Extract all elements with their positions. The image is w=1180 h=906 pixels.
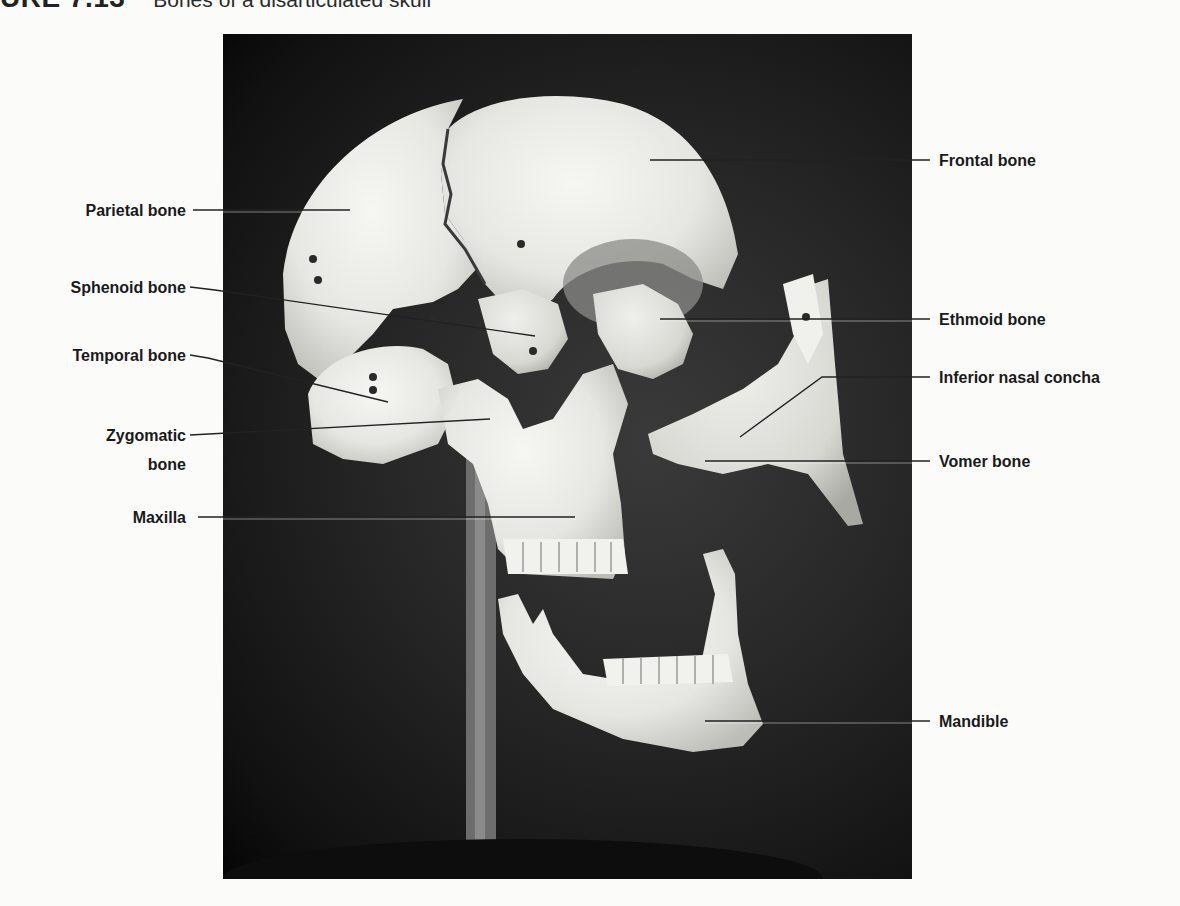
label-maxilla: Maxilla — [133, 508, 186, 527]
label-parietal-bone: Parietal bone — [86, 201, 186, 220]
label-temporal-bone: Temporal bone — [73, 346, 187, 365]
disarticulated-skull-illustration — [223, 34, 912, 879]
label-inferior-nasal-concha: Inferior nasal concha — [939, 368, 1100, 387]
figure-caption: URE 7.13 Bones of a disarticulated skull — [0, 0, 431, 13]
label-vomer-bone: Vomer bone — [939, 452, 1030, 471]
sphenoid-bone-shape — [478, 289, 568, 374]
figure-title: Bones of a disarticulated skull — [153, 0, 431, 11]
label-frontal-bone: Frontal bone — [939, 151, 1036, 170]
label-sphenoid-bone: Sphenoid bone — [70, 278, 186, 297]
label-ethmoid-bone: Ethmoid bone — [939, 310, 1046, 329]
label-zygomatic-bone-line2: bone — [148, 455, 186, 474]
label-mandible: Mandible — [939, 712, 1008, 731]
skull-photograph — [223, 34, 912, 879]
label-zygomatic-bone-line1: Zygomatic — [106, 426, 186, 445]
mandible-shape — [498, 549, 763, 752]
figure-number: URE 7.13 — [0, 0, 125, 13]
